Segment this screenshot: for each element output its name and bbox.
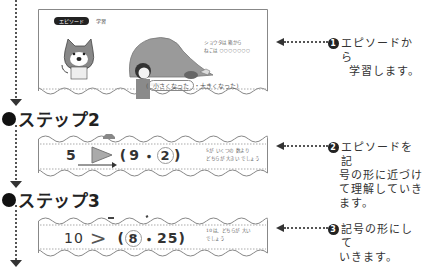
callout-2-line-1: エピソードを記: [341, 141, 424, 169]
paren-open: (: [120, 147, 127, 163]
bullet-icon: [2, 112, 16, 126]
callout-3-line-1: 記号の形にして: [341, 223, 424, 251]
episode-badge: エピソード: [54, 17, 89, 25]
step-number-badge: 3: [328, 224, 339, 235]
episode-side-text-2: ねこは ○○○○○○○: [204, 47, 250, 55]
callout-2-line-4: ます。: [339, 197, 424, 211]
episode-badge-label: 学習: [96, 17, 106, 24]
step-3-heading: ステップ3: [2, 187, 100, 212]
callout-2: 2 エピソードを記 号の形に近づけ て理解していき ます。: [276, 141, 424, 211]
flow-line-3: [15, 205, 17, 260]
step-2-side-text-1: 5が いくつの 数より: [206, 147, 249, 155]
expr-option-b-circled: 2: [157, 147, 174, 164]
callout-1-line-1: エピソードから: [341, 37, 424, 65]
expr-option-b: 25: [157, 230, 178, 246]
callout-1-line-2: 学習します。: [341, 65, 424, 79]
expr-left: 5: [66, 147, 77, 163]
step-3-side-text-2: でしょう: [206, 235, 224, 243]
callout-3-line-2: いきます。: [339, 251, 424, 265]
step-number-badge: 2: [328, 142, 339, 153]
option-bigger: 大きくなった: [200, 82, 236, 89]
step-2-heading-text: ステップ2: [18, 106, 100, 131]
step-3-expression: 10 > ( 8 ・ 25 ): [64, 226, 186, 250]
episode-options: (小さくなった・大きくなった): [146, 81, 239, 90]
callout-2-line-2: 号の形に近づけ: [339, 169, 424, 183]
greater-than-icon: [91, 146, 113, 164]
step-2-side-text-2: どちらが 大きい でしょう: [206, 155, 259, 163]
step-3-heading-text: ステップ3: [18, 187, 100, 212]
step-2-card: 5 ( 9 ・ 2 ) 5が いくつの 数より どちらが 大きい でしょう: [38, 131, 268, 181]
step-number-badge: 1: [328, 38, 339, 49]
step-3-side-text-1: 10は、どちらが 大い: [206, 227, 251, 235]
paren-close: ): [174, 147, 181, 163]
down-arrow-icon: [10, 260, 22, 267]
paren-close: ): [178, 230, 185, 246]
flow-line-1: [15, 0, 17, 98]
episode-card: エピソード 学習 ショウタは 箱から ねこは ○○○○○○○ (小さくなった・大…: [38, 9, 268, 99]
callout-3: 3 記号の形にして いきます。: [276, 223, 424, 265]
left-arrow-icon: [276, 224, 284, 232]
callout-1: 1 エピソードから 学習します。: [276, 37, 424, 79]
bullet-icon: [2, 193, 16, 207]
callout-2-line-3: て理解していき: [339, 183, 424, 197]
separator: ・: [142, 228, 157, 248]
episode-side-text-1: ショウタは 箱から: [204, 39, 242, 47]
step-2-heading: ステップ2: [2, 106, 100, 131]
option-smaller: 小さくなった: [148, 80, 194, 91]
step-3-card: 10 > ( 8 ・ 25 ) 10は、どちらが 大い でしょう: [38, 213, 268, 261]
expr-left: 10: [64, 230, 84, 246]
expr-option-a-circled: 8: [125, 230, 142, 247]
down-arrow-icon: [10, 99, 22, 106]
separator: ・: [142, 145, 157, 165]
flow-line-2: [15, 125, 17, 180]
paren-open: (: [118, 230, 125, 246]
expr-option-a: 9: [129, 147, 140, 163]
step-2-expression: 5 ( 9 ・ 2 ): [66, 145, 181, 165]
left-arrow-icon: [276, 142, 284, 150]
greater-than-icon: >: [90, 226, 108, 250]
left-arrow-icon: [276, 38, 284, 46]
